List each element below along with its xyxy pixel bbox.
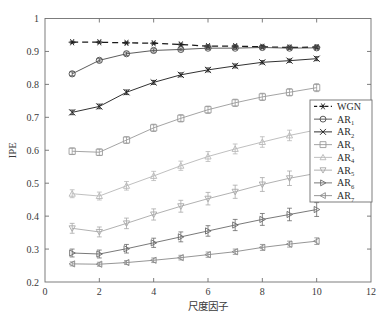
svg-text:0.9: 0.9: [27, 46, 40, 57]
svg-text:尺度因子: 尺度因子: [188, 300, 228, 312]
svg-text:6: 6: [206, 286, 211, 297]
svg-text:0.5: 0.5: [27, 178, 40, 189]
svg-text:12: 12: [366, 286, 376, 297]
chart-plot-area: 0246810120.20.30.40.50.60.70.80.91尺度因子IP…: [0, 0, 389, 325]
svg-text:2: 2: [97, 286, 102, 297]
svg-text:0.4: 0.4: [27, 211, 40, 222]
series-AR5: [69, 166, 320, 237]
chart-figure: 0246810120.20.30.40.50.60.70.80.91尺度因子IP…: [0, 0, 389, 325]
chart-legend: WGNAR1AR2AR3AR4AR5AR6AR7: [310, 100, 372, 203]
svg-text:0.8: 0.8: [27, 79, 40, 90]
series-AR6: [70, 203, 320, 258]
series-AR4: [69, 124, 320, 200]
series-AR3: [69, 84, 320, 156]
svg-text:4: 4: [151, 286, 156, 297]
svg-text:0: 0: [43, 286, 48, 297]
svg-text:0.7: 0.7: [27, 112, 40, 123]
svg-text:1: 1: [34, 13, 39, 24]
svg-text:IPE: IPE: [7, 142, 18, 158]
series-AR2: [69, 56, 320, 116]
svg-text:0.2: 0.2: [27, 277, 40, 288]
svg-text:0.6: 0.6: [27, 145, 40, 156]
svg-text:8: 8: [260, 286, 265, 297]
svg-text:10: 10: [312, 286, 322, 297]
svg-text:0.3: 0.3: [27, 244, 40, 255]
svg-text:WGN: WGN: [337, 101, 361, 112]
